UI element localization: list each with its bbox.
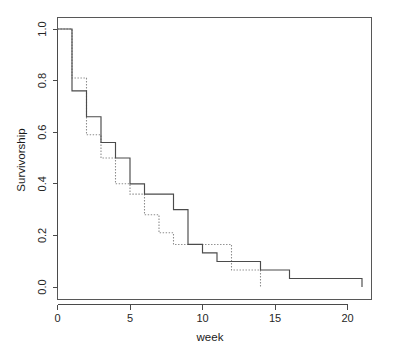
x-tick-label-2: 10 xyxy=(196,312,208,324)
survivorship-chart: 0.0 0.2 0.4 0.6 0.8 1.0 0 5 10 15 20 wee… xyxy=(0,0,393,350)
x-tick-label-1: 5 xyxy=(127,312,133,324)
x-axis-title: week xyxy=(196,331,224,343)
chart-canvas: 0.0 0.2 0.4 0.6 0.8 1.0 0 5 10 15 20 wee… xyxy=(0,0,393,350)
y-tick-label-3: 0.6 xyxy=(36,125,48,140)
x-tick-label-0: 0 xyxy=(54,312,60,324)
x-tick-label-3: 15 xyxy=(269,312,281,324)
y-tick-label-5: 1.0 xyxy=(36,21,48,36)
y-tick-label-4: 0.8 xyxy=(36,73,48,88)
x-tick-label-4: 20 xyxy=(341,312,353,324)
y-tick-label-1: 0.2 xyxy=(36,228,48,243)
chart-background xyxy=(0,0,393,350)
y-axis-title: Survivorship xyxy=(15,128,27,191)
y-tick-label-2: 0.4 xyxy=(36,176,48,191)
y-tick-label-0: 0.0 xyxy=(36,279,48,294)
